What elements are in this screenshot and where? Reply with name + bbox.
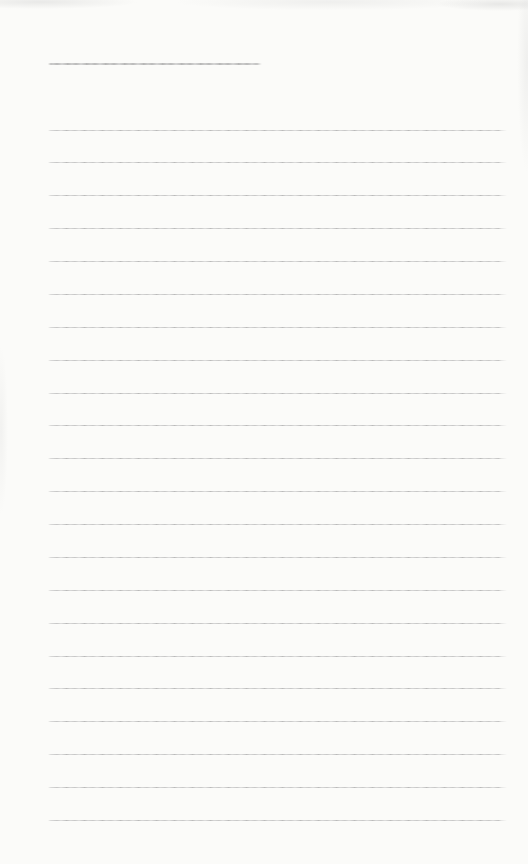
ruled-line bbox=[48, 425, 507, 426]
ruled-line bbox=[48, 524, 507, 525]
ruled-line bbox=[48, 130, 507, 131]
ruled-line bbox=[48, 393, 507, 394]
ruled-line bbox=[48, 820, 507, 821]
ruled-line bbox=[48, 327, 507, 328]
ruled-line bbox=[48, 195, 507, 196]
ruled-line bbox=[48, 656, 507, 657]
ruled-line bbox=[48, 557, 507, 558]
ruled-line bbox=[48, 491, 507, 492]
ruled-line bbox=[48, 623, 507, 624]
ruled-line bbox=[48, 787, 507, 788]
ruled-line bbox=[48, 721, 507, 722]
ruled-line bbox=[48, 294, 507, 295]
notepad-page bbox=[0, 0, 528, 864]
ruled-line bbox=[48, 261, 507, 262]
ruled-line bbox=[48, 228, 507, 229]
ruled-line bbox=[48, 590, 507, 591]
ruled-line bbox=[48, 688, 507, 689]
ruled-line bbox=[48, 458, 507, 459]
title-underline bbox=[48, 63, 262, 65]
ruled-line bbox=[48, 162, 507, 163]
ruled-line bbox=[48, 754, 507, 755]
ruled-line bbox=[48, 360, 507, 361]
